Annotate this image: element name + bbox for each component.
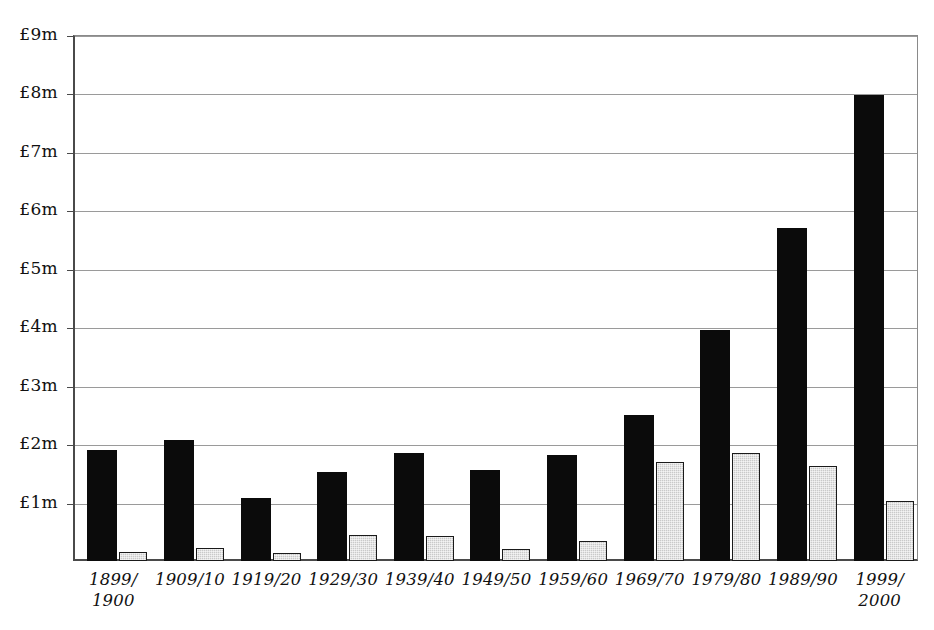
x-tick-label: 1959/60	[535, 570, 612, 591]
bar-grey	[809, 466, 837, 561]
bar-black	[547, 455, 577, 561]
bars-layer	[75, 35, 918, 561]
bar-grey	[426, 536, 454, 561]
bar-black	[777, 228, 807, 561]
bar-black	[164, 440, 194, 561]
bar-grey	[886, 501, 914, 561]
bar-chart: £9m £8m £7m £6m £5m £4m £3m £2m £1m 1899…	[0, 0, 934, 630]
y-tick-label-8: £8m	[19, 84, 58, 101]
bar-grey	[656, 462, 684, 561]
bar-black	[241, 498, 271, 561]
bar-black	[317, 472, 347, 561]
y-tick-9	[67, 36, 75, 37]
bar-grey	[579, 541, 607, 561]
y-tick-6	[67, 211, 75, 212]
y-tick-5	[67, 270, 75, 271]
x-tick-label: 1919/20	[228, 570, 305, 591]
bar-grey	[349, 535, 377, 561]
x-tick-label: 1979/80	[688, 570, 765, 591]
y-tick-2	[67, 445, 75, 446]
bar-group	[765, 35, 842, 561]
x-tick-label: 1989/90	[765, 570, 842, 591]
y-tick-3	[67, 387, 75, 388]
x-tick-label: 1949/50	[458, 570, 535, 591]
y-tick-label-3: £3m	[19, 377, 58, 394]
bar-group	[458, 35, 535, 561]
bar-group	[688, 35, 765, 561]
bar-black	[470, 470, 500, 561]
bar-group	[841, 35, 918, 561]
y-tick-label-6: £6m	[19, 201, 58, 218]
bar-group	[75, 35, 152, 561]
x-axis-labels: 1899/ 19001909/101919/201929/301939/4019…	[75, 570, 918, 628]
bar-group	[611, 35, 688, 561]
bar-black	[87, 450, 117, 561]
x-tick-label: 1929/30	[305, 570, 382, 591]
bar-group	[382, 35, 459, 561]
bar-grey	[273, 553, 301, 561]
bar-group	[228, 35, 305, 561]
y-tick-4	[67, 328, 75, 329]
y-axis-labels: £9m £8m £7m £6m £5m £4m £3m £2m £1m	[0, 0, 58, 630]
bar-group	[305, 35, 382, 561]
x-tick-label: 1909/10	[152, 570, 229, 591]
bar-grey	[732, 453, 760, 561]
bar-group	[152, 35, 229, 561]
x-tick-label: 1969/70	[611, 570, 688, 591]
y-tick-8	[67, 94, 75, 95]
y-tick-label-5: £5m	[19, 260, 58, 277]
y-tick-label-1: £1m	[19, 494, 58, 511]
bar-grey	[502, 549, 530, 561]
y-tick-label-9: £9m	[19, 26, 58, 43]
x-tick-label: 1899/ 1900	[75, 570, 152, 611]
x-tick-label: 1939/40	[382, 570, 459, 591]
bar-black	[700, 330, 730, 561]
bar-black	[394, 453, 424, 561]
bar-black	[854, 95, 884, 561]
bar-group	[535, 35, 612, 561]
y-tick-label-7: £7m	[19, 143, 58, 160]
y-tick-1	[67, 504, 75, 505]
bar-black	[624, 415, 654, 561]
x-tick-label: 1999/ 2000	[841, 570, 918, 611]
bar-grey	[196, 548, 224, 561]
bar-grey	[119, 552, 147, 561]
y-tick-7	[67, 153, 75, 154]
y-tick-label-2: £2m	[19, 435, 58, 452]
y-tick-label-4: £4m	[19, 318, 58, 335]
